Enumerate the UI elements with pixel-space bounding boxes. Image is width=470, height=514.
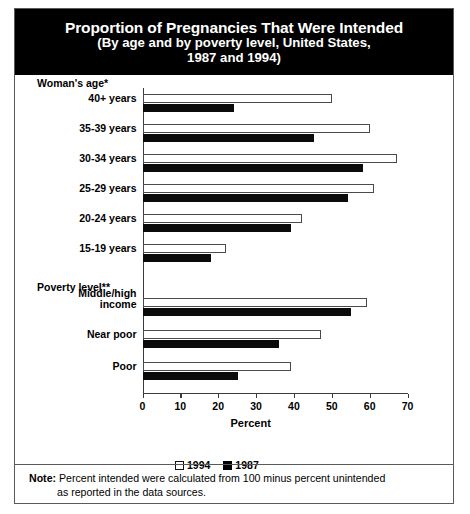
x-axis-tick: [218, 394, 219, 398]
bar-1987: [143, 254, 211, 263]
title-line-2: (By age and by poverty level, United Sta…: [97, 36, 370, 51]
x-axis-tick-label: 10: [168, 400, 192, 412]
legend-swatch-black-icon: [223, 461, 232, 470]
chart-frame: Proportion of Pregnancies That Were Inte…: [14, 8, 454, 504]
x-axis-tick-label: 30: [244, 400, 268, 412]
note-prefix: Note:: [29, 472, 56, 484]
chart-title-banner: Proportion of Pregnancies That Were Inte…: [15, 9, 453, 75]
legend-label: 1987: [235, 459, 258, 471]
category-label: 40+ years: [29, 93, 137, 104]
category-label: Near poor: [29, 329, 137, 340]
x-axis-tick-label: 0: [131, 400, 155, 412]
x-axis-tick-label: 50: [320, 400, 344, 412]
bar-1987: [143, 164, 363, 173]
bar-1994: [143, 330, 321, 339]
x-axis-tick: [332, 394, 333, 398]
group-header-womans-age: Woman's age*: [37, 77, 108, 89]
bar-1987: [143, 224, 291, 233]
chart-legend: 19941987: [175, 459, 259, 471]
legend-item: 1987: [223, 459, 258, 471]
bar-1994: [143, 154, 397, 163]
title-line-3: 1987 and 1994): [187, 51, 281, 66]
x-axis-tick: [256, 394, 257, 398]
note-divider: [15, 464, 453, 465]
x-axis-line: [143, 393, 408, 394]
x-axis-tick: [143, 394, 144, 398]
x-axis-label: Percent: [231, 417, 271, 429]
bar-1987: [143, 372, 238, 381]
note-line-1: Percent intended were calculated from 10…: [56, 472, 385, 484]
x-axis-tick: [408, 394, 409, 398]
x-axis-tick-label: 60: [358, 400, 382, 412]
chart-note: Note: Percent intended were calculated f…: [29, 472, 441, 500]
bar-1994: [143, 362, 291, 371]
bar-1994: [143, 298, 366, 307]
bar-1994: [143, 244, 226, 253]
bar-1987: [143, 104, 234, 113]
bar-1987: [143, 340, 279, 349]
x-axis-tick-label: 40: [282, 400, 306, 412]
x-axis-tick-label: 70: [396, 400, 420, 412]
category-label: Middle/highincome: [29, 288, 137, 310]
bar-1994: [143, 124, 370, 133]
category-label: Poor: [29, 361, 137, 372]
title-line-1: Proportion of Pregnancies That Were Inte…: [65, 19, 403, 36]
category-label: 20-24 years: [29, 213, 137, 224]
note-line-2: as reported in the data sources.: [29, 486, 441, 500]
x-axis-tick-label: 20: [206, 400, 230, 412]
x-axis-tick: [370, 394, 371, 398]
bar-1994: [143, 184, 374, 193]
category-label: 30-34 years: [29, 153, 137, 164]
bar-1994: [143, 94, 332, 103]
bar-chart-plot: 010203040506070PercentWoman's age*Povert…: [15, 75, 453, 455]
bar-1987: [143, 194, 347, 203]
category-label: 15-19 years: [29, 243, 137, 254]
bar-1987: [143, 134, 313, 143]
legend-item: 1994: [175, 459, 210, 471]
x-axis-tick: [294, 394, 295, 398]
category-label: 35-39 years: [29, 123, 137, 134]
bar-1994: [143, 214, 302, 223]
x-axis-tick: [180, 394, 181, 398]
legend-label: 1994: [187, 459, 210, 471]
category-label: 25-29 years: [29, 183, 137, 194]
bar-1987: [143, 308, 351, 317]
legend-swatch-white-icon: [175, 461, 184, 470]
